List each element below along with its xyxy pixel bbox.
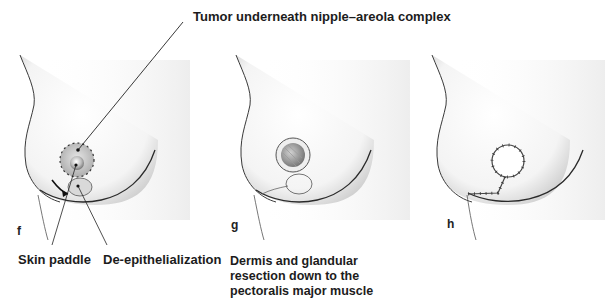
panel-f-breast	[20, 22, 190, 245]
panel-g-caption-line-2: resection down to the	[230, 269, 373, 284]
panel-h-breast	[432, 55, 605, 240]
panel-g-caption-line-3: pectoralis major muscle	[230, 284, 373, 299]
panel-g-caption: Dermis and glandular resection down to t…	[230, 254, 373, 299]
callout-tumor-label: Tumor underneath nipple–areola complex	[193, 9, 451, 24]
panel-g-caption-line-1: Dermis and glandular	[230, 254, 373, 269]
panel-letter-f: f	[17, 224, 21, 238]
skin-paddle-label: Skin paddle	[18, 252, 91, 267]
panel-g-breast	[236, 55, 410, 240]
de-epithelialization-label: De-epithelialization	[103, 252, 221, 267]
panel-letter-g: g	[231, 218, 238, 232]
panel-letter-h: h	[447, 217, 454, 231]
